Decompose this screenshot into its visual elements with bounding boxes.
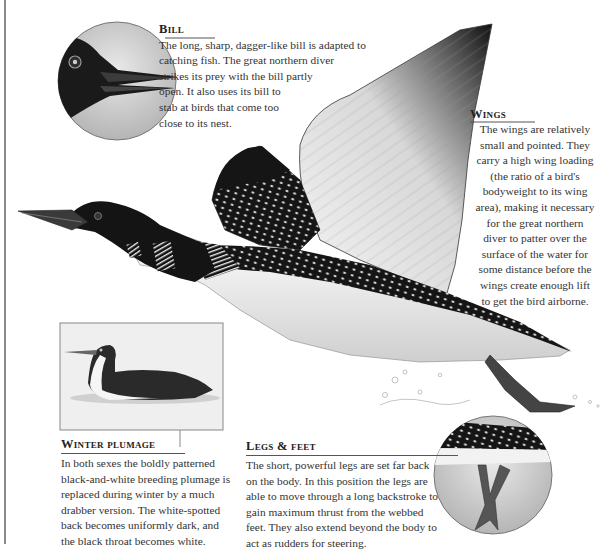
bill-heading: Bill <box>159 22 184 37</box>
bill-text: The long, sharp, dagger-like bill is ada… <box>159 38 384 132</box>
wings-text: The wings are relatively small and point… <box>460 122 610 309</box>
bill-caption: Bill The long, sharp, dagger-like bill i… <box>159 22 384 131</box>
winter-plumage-caption: Winter plumage In both sexes the boldly … <box>61 437 251 550</box>
wings-caption: Wings The wings are relatively small and… <box>460 107 610 309</box>
winter-plumage-text: In both sexes the boldly patterned black… <box>61 456 251 550</box>
wings-heading: Wings <box>470 107 534 122</box>
legs-feet-heading: Legs & feet <box>246 439 458 456</box>
winter-plumage-inset-image <box>60 323 223 447</box>
legs-feet-caption: Legs & feet The short, powerful legs are… <box>246 439 466 552</box>
legs-feet-text: The short, powerful legs are set far bac… <box>246 458 466 552</box>
winter-plumage-heading: Winter plumage <box>61 437 185 454</box>
